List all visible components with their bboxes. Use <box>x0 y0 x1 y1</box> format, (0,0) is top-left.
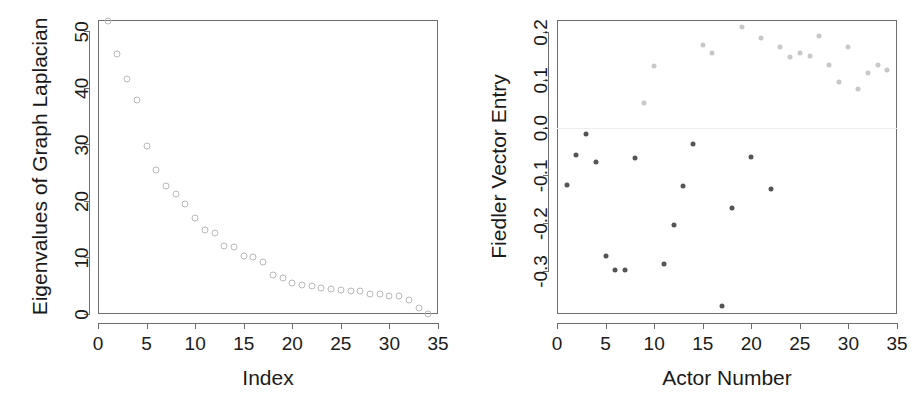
x-axis-tick <box>897 323 898 329</box>
data-point <box>574 152 579 157</box>
x-axis-tick <box>292 323 293 329</box>
data-point <box>691 142 696 147</box>
data-point <box>386 292 393 299</box>
data-point <box>642 100 647 105</box>
data-point <box>337 286 344 293</box>
data-point <box>201 227 208 234</box>
data-point <box>182 201 189 208</box>
data-point <box>172 190 179 197</box>
data-point <box>797 51 802 56</box>
data-point <box>671 222 676 227</box>
data-point <box>885 67 890 72</box>
data-point <box>593 160 598 165</box>
data-point <box>564 183 569 188</box>
data-point <box>143 143 150 150</box>
x-axis-tick <box>800 323 801 329</box>
data-point <box>153 166 160 173</box>
y-axis-title-fiedler-entry: Fiedler Vector Entry <box>488 17 509 317</box>
data-point <box>856 87 861 92</box>
data-point <box>749 155 754 160</box>
x-axis-tick <box>751 323 752 329</box>
x-axis-tick-label: 15 <box>233 334 254 353</box>
plot-area-scree <box>98 20 438 314</box>
data-point <box>700 43 705 48</box>
data-point <box>114 51 121 58</box>
data-point <box>827 63 832 68</box>
x-axis-tick <box>557 323 558 329</box>
y-axis-tick-label: 0 <box>72 285 91 345</box>
x-axis-tick-label: 15 <box>692 334 713 353</box>
data-point <box>240 253 247 260</box>
x-axis-tick <box>341 323 342 329</box>
x-axis-tick <box>703 323 704 329</box>
x-axis-tick <box>848 323 849 329</box>
data-point <box>396 293 403 300</box>
data-point <box>376 291 383 298</box>
data-point <box>846 44 851 49</box>
data-point <box>739 25 744 30</box>
data-point <box>192 214 199 221</box>
data-point <box>768 186 773 191</box>
data-point <box>299 282 306 289</box>
data-point <box>211 229 218 236</box>
data-point <box>778 45 783 50</box>
x-axis-tick <box>244 323 245 329</box>
x-axis-tick-label: 35 <box>886 334 907 353</box>
x-axis-tick-label: 25 <box>789 334 810 353</box>
x-axis-tick <box>98 323 99 329</box>
data-point <box>104 17 111 24</box>
x-axis-line <box>557 323 897 324</box>
data-point <box>425 311 432 318</box>
x-axis-title-index: Index <box>242 367 293 388</box>
data-point <box>836 79 841 84</box>
data-point <box>817 34 822 39</box>
data-point <box>865 71 870 76</box>
x-axis-tick-label: 25 <box>330 334 351 353</box>
x-axis-tick-label: 0 <box>552 334 563 353</box>
y-axis-tick-label: 0.2 <box>531 2 550 62</box>
data-point <box>357 288 364 295</box>
data-point <box>788 55 793 60</box>
data-point <box>729 206 734 211</box>
data-point <box>124 75 131 82</box>
data-point <box>661 262 666 267</box>
data-point <box>250 254 257 261</box>
x-axis-tick <box>654 323 655 329</box>
data-point <box>603 254 608 259</box>
data-point <box>710 50 715 55</box>
x-axis-tick-label: 20 <box>741 334 762 353</box>
data-point <box>133 96 140 103</box>
x-axis-tick <box>147 323 148 329</box>
data-point <box>289 280 296 287</box>
panel-scree-plot: 0510152025303501020304050 Index Eigenval… <box>0 0 459 411</box>
x-axis-tick <box>195 323 196 329</box>
data-point <box>318 284 325 291</box>
data-point <box>584 132 589 137</box>
data-point <box>347 287 354 294</box>
x-axis-tick <box>438 323 439 329</box>
x-axis-tick-label: 10 <box>185 334 206 353</box>
data-point <box>613 268 618 273</box>
data-point <box>652 63 657 68</box>
y-axis-tick-label: 30 <box>72 115 91 175</box>
data-point <box>759 36 764 41</box>
data-point <box>221 243 228 250</box>
data-point <box>720 304 725 309</box>
y-axis-tick-label: 50 <box>72 2 91 62</box>
two-panel-figure: 0510152025303501020304050 Index Eigenval… <box>0 0 918 411</box>
y-axis-title-eigenvalues: Eigenvalues of Graph Laplacian <box>29 17 50 317</box>
data-point <box>681 183 686 188</box>
data-point <box>308 283 315 290</box>
data-point <box>405 297 412 304</box>
x-axis-tick <box>606 323 607 329</box>
x-axis-line <box>98 323 438 324</box>
x-axis-tick-label: 5 <box>600 334 611 353</box>
y-axis-tick-label: 20 <box>72 171 91 231</box>
data-point <box>623 267 628 272</box>
x-axis-tick <box>389 323 390 329</box>
data-point <box>269 271 276 278</box>
data-point <box>328 286 335 293</box>
data-point <box>807 54 812 59</box>
y-axis-tick-label: 10 <box>72 228 91 288</box>
x-axis-tick-label: 0 <box>93 334 104 353</box>
